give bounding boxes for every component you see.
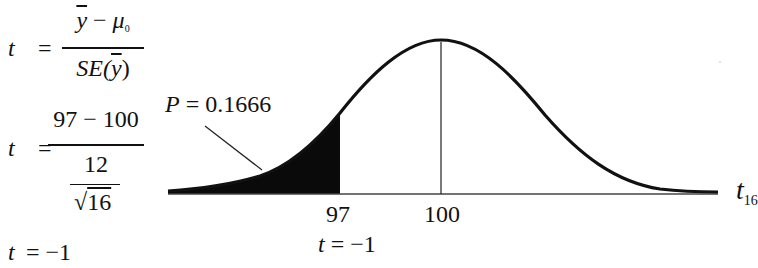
- t-value-under-tick: t = −1: [318, 232, 376, 256]
- shaded-p-region: [168, 113, 340, 194]
- tick-label-97: 97: [326, 202, 350, 226]
- p-leader-line: [205, 126, 262, 170]
- scan-speck: [719, 61, 721, 63]
- tick-label-100: 100: [424, 202, 460, 226]
- axis-label-t16: t16: [736, 176, 758, 208]
- p-value-label: P = 0.1666: [165, 92, 271, 116]
